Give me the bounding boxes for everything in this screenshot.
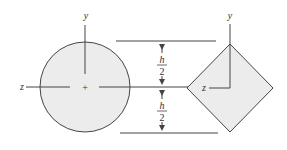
z-axis-label-circle: z xyxy=(19,81,24,92)
centroid-marker: + xyxy=(82,82,88,93)
circular-section: + y z xyxy=(19,10,216,132)
y-axis-label-circle: y xyxy=(83,10,89,21)
lower-dim-denominator: 2 xyxy=(160,112,165,123)
y-axis-label-square: y xyxy=(227,10,233,21)
z-axis-label-square: z xyxy=(201,82,206,93)
cross-section-diagram: + y z h 2 h 2 y z xyxy=(0,0,287,150)
square-section-rotated: y z xyxy=(187,10,273,132)
upper-dim-denominator: 2 xyxy=(160,66,165,77)
lower-dim-numerator: h xyxy=(160,100,165,111)
upper-dim-numerator: h xyxy=(160,54,165,65)
